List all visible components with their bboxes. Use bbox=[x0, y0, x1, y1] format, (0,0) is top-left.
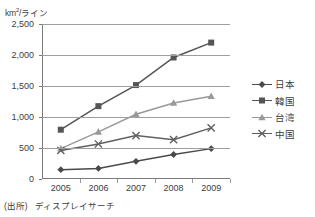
y-tick-mark bbox=[39, 24, 42, 25]
grid-line bbox=[42, 55, 230, 56]
x-marker bbox=[258, 130, 265, 137]
chart-figure: km2/ライン 05001,0001,5002,0002,500 2005200… bbox=[0, 0, 315, 217]
legend-swatch bbox=[252, 95, 272, 106]
x-tick-mark bbox=[230, 179, 231, 183]
triangle-marker bbox=[258, 113, 265, 120]
diamond-marker bbox=[259, 81, 266, 88]
y-tick-label: 500 bbox=[19, 143, 34, 153]
grid-line bbox=[42, 117, 230, 118]
square-marker bbox=[259, 98, 265, 104]
x-marker bbox=[252, 128, 272, 139]
plot-area bbox=[42, 24, 230, 179]
chart-legend: 日本韓国台湾中国 bbox=[252, 76, 314, 142]
x-tick-label: 2005 bbox=[51, 183, 71, 193]
legend-swatch bbox=[252, 112, 272, 123]
x-axis-tick-labels: 20052006200720082009 bbox=[42, 181, 230, 197]
legend-label: 中国 bbox=[275, 127, 295, 141]
x-tick-label: 2007 bbox=[126, 183, 146, 193]
legend-label: 日本 bbox=[275, 77, 295, 91]
legend-swatch bbox=[252, 128, 272, 139]
y-tick-label: 1,000 bbox=[11, 112, 34, 122]
x-tick-label: 2006 bbox=[88, 183, 108, 193]
legend-swatch bbox=[252, 79, 272, 90]
y-axis-tick-labels: 05001,0001,5002,0002,500 bbox=[0, 24, 38, 179]
legend-label: 韓国 bbox=[275, 94, 295, 108]
y-axis-unit-rest: /ライン bbox=[19, 8, 48, 18]
legend-label: 台湾 bbox=[275, 110, 295, 124]
grid-line bbox=[42, 86, 230, 87]
diamond-marker bbox=[252, 79, 272, 90]
y-tick-label: 2,500 bbox=[11, 19, 34, 29]
legend-item[interactable]: 中国 bbox=[252, 126, 314, 143]
source-note: (出所)ディスプレイサーチ bbox=[4, 199, 115, 211]
y-tick-mark bbox=[39, 148, 42, 149]
legend-item[interactable]: 日本 bbox=[252, 76, 314, 93]
y-tick-mark bbox=[39, 117, 42, 118]
y-axis-unit-base: km bbox=[5, 8, 16, 18]
y-tick-mark bbox=[39, 179, 42, 180]
y-tick-label: 1,500 bbox=[11, 81, 34, 91]
source-name: ディスプレイサーチ bbox=[35, 201, 115, 211]
source-prefix: (出所) bbox=[4, 201, 28, 211]
square-marker bbox=[252, 95, 272, 106]
grid-line bbox=[42, 24, 230, 25]
y-tick-label: 2,000 bbox=[11, 50, 34, 60]
x-tick-label: 2008 bbox=[164, 183, 184, 193]
grid-line bbox=[42, 148, 230, 149]
y-axis-unit-title: km2/ライン bbox=[5, 6, 48, 18]
y-tick-label: 0 bbox=[29, 174, 34, 184]
plot-frame bbox=[42, 24, 230, 179]
y-tick-mark bbox=[39, 86, 42, 87]
triangle-marker bbox=[252, 112, 272, 123]
y-tick-mark bbox=[39, 55, 42, 56]
legend-item[interactable]: 韓国 bbox=[252, 93, 314, 110]
x-tick-label: 2009 bbox=[201, 183, 221, 193]
legend-item[interactable]: 台湾 bbox=[252, 109, 314, 126]
